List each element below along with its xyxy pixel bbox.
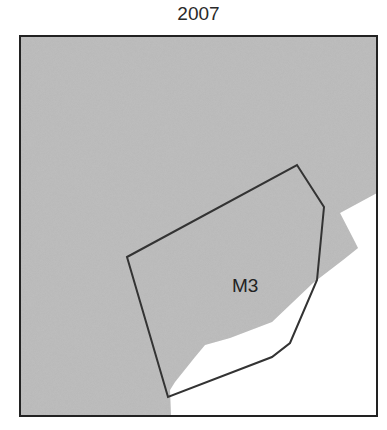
land-area (20, 36, 377, 416)
zone-m3-label: M3 (232, 275, 258, 296)
map-figure: M3 (0, 0, 387, 430)
